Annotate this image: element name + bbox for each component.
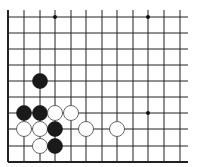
white-stone xyxy=(64,106,79,121)
white-stone xyxy=(79,122,94,137)
white-stone xyxy=(33,139,48,154)
go-board xyxy=(0,0,197,167)
white-stone xyxy=(110,122,125,137)
star-point-icon xyxy=(146,15,150,19)
black-stone xyxy=(48,139,63,154)
black-stone xyxy=(33,106,48,121)
star-point-icon xyxy=(146,111,150,115)
black-stone xyxy=(33,74,48,89)
black-stone xyxy=(48,122,63,137)
star-point-icon xyxy=(53,15,57,19)
black-stone xyxy=(17,106,32,121)
white-stone xyxy=(17,122,32,137)
white-stone xyxy=(33,122,48,137)
white-stone xyxy=(48,106,63,121)
